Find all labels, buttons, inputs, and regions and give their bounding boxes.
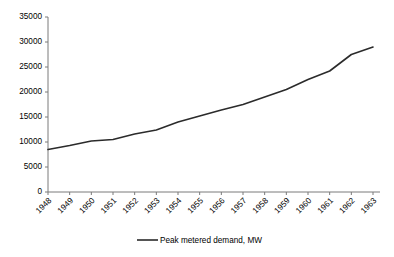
x-tick-label: 1951 [99, 196, 119, 216]
y-tick-label: 0 [37, 187, 42, 196]
x-tick-label: 1954 [164, 196, 184, 216]
x-tick-label: 1957 [229, 196, 249, 216]
x-tick-label: 1948 [34, 196, 54, 216]
x-tick-label: 1956 [208, 196, 228, 216]
x-axis: 1948194919501951195219531954195519561957… [34, 192, 380, 215]
y-axis-ticks: 05000100001500020000250003000035000 [19, 12, 48, 196]
x-tick-label: 1949 [56, 196, 76, 216]
y-tick-label: 10000 [19, 137, 42, 146]
x-tick-label: 1952 [121, 196, 141, 216]
x-tick-label: 1950 [78, 196, 98, 216]
x-tick-label: 1963 [359, 196, 379, 216]
x-tick-label: 1960 [294, 196, 314, 216]
x-tick-label: 1961 [316, 196, 336, 216]
x-axis-ticks: 1948194919501951195219531954195519561957… [34, 192, 379, 215]
y-tick-label: 5000 [24, 162, 43, 171]
chart-container: 05000100001500020000250003000035000 1948… [0, 0, 394, 257]
y-tick-label: 15000 [19, 112, 42, 121]
x-tick-label: 1959 [273, 196, 293, 216]
series-line-peak-metered-demand [48, 47, 373, 150]
x-tick-label: 1958 [251, 196, 271, 216]
y-tick-label: 35000 [19, 12, 42, 21]
x-tick-label: 1953 [143, 196, 163, 216]
y-tick-label: 20000 [19, 87, 42, 96]
legend-label: Peak metered demand, MW [160, 236, 262, 245]
y-axis: 05000100001500020000250003000035000 [19, 12, 48, 196]
y-tick-label: 25000 [19, 62, 42, 71]
legend: Peak metered demand, MW [137, 236, 262, 245]
x-tick-label: 1955 [186, 196, 206, 216]
x-tick-label: 1962 [338, 196, 358, 216]
line-chart: 05000100001500020000250003000035000 1948… [0, 0, 394, 257]
plot-area [48, 47, 373, 150]
y-tick-label: 30000 [19, 37, 42, 46]
